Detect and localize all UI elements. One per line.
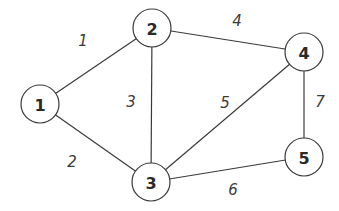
node-label: 2: [146, 20, 157, 39]
edge-weight-label: 5: [220, 94, 230, 112]
edge-weight-label: 3: [126, 93, 136, 111]
edge-3-5: [151, 157, 304, 182]
node-label: 3: [145, 174, 156, 193]
nodes-layer: 12345: [21, 9, 323, 201]
node-label: 1: [34, 96, 45, 115]
edge-weights-layer: 1234567: [67, 12, 325, 199]
edge-weight-label: 4: [232, 12, 242, 30]
node-5: 5: [285, 138, 323, 176]
edge-weight-label: 1: [78, 32, 88, 50]
edge-1-3: [40, 104, 151, 182]
edges-layer: [40, 28, 304, 182]
edge-weight-label: 6: [228, 181, 238, 199]
edge-weight-label: 7: [315, 93, 325, 111]
weighted-graph: 1234567 12345: [0, 0, 339, 211]
node-1: 1: [21, 85, 59, 123]
edge-2-3: [151, 28, 152, 182]
node-label: 5: [298, 149, 309, 168]
node-3: 3: [132, 163, 170, 201]
node-label: 4: [298, 44, 309, 63]
edge-3-4: [151, 52, 304, 182]
edge-weight-label: 2: [67, 153, 77, 171]
node-4: 4: [285, 33, 323, 71]
edge-2-4: [152, 28, 304, 52]
node-2: 2: [133, 9, 171, 47]
